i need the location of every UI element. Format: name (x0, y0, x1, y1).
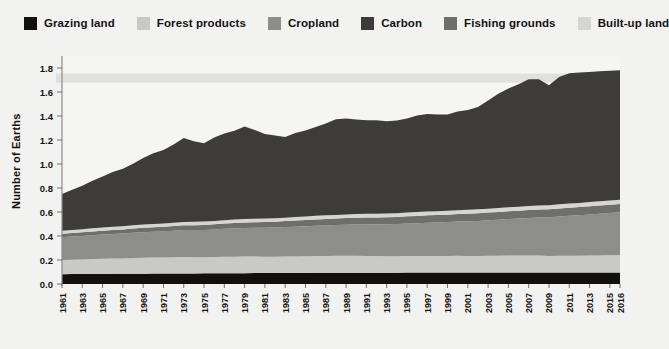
x-tick-label: 1983 (281, 293, 291, 313)
legend-swatch-icon (444, 17, 457, 30)
x-tick-label: 1977 (220, 293, 230, 313)
legend-item[interactable]: Grazing land (24, 17, 115, 30)
legend-item-label: Fishing grounds (464, 17, 556, 29)
area-series (62, 255, 620, 274)
y-tick-label: 0.2 (40, 255, 53, 266)
x-tick-label: 2009 (544, 293, 554, 313)
legend-item[interactable]: Cropland (268, 17, 339, 30)
legend-swatch-icon (578, 17, 591, 30)
legend-item[interactable]: Carbon (361, 17, 422, 30)
x-tick-label: 2013 (585, 293, 595, 313)
y-tick-label: 0.4 (40, 231, 54, 242)
y-tick-label: 1.0 (40, 159, 53, 170)
x-tick-label: 1961 (58, 293, 68, 313)
y-tick-label: 0.0 (40, 279, 53, 290)
legend-item[interactable]: Forest products (137, 17, 246, 30)
y-tick-label: 1.6 (40, 87, 53, 98)
chart-legend: Grazing landForest productsCroplandCarbo… (0, 0, 632, 46)
legend-item-label: Forest products (157, 17, 246, 29)
x-tick-label: 1965 (98, 293, 108, 313)
legend-item-label: Cropland (288, 17, 339, 29)
x-tick-label: 2003 (484, 293, 494, 313)
legend-item-label: Built-up land (598, 17, 669, 29)
chart-canvas: 0.00.20.40.60.81.01.21.41.61.81961196319… (0, 46, 632, 349)
legend-swatch-icon (24, 17, 37, 30)
x-tick-label: 2015 (605, 293, 615, 313)
x-tick-label: 1993 (382, 293, 392, 313)
x-tick-label: 1999 (443, 293, 453, 313)
x-tick-label: 1985 (301, 293, 311, 313)
y-tick-label: 1.8 (40, 63, 53, 74)
x-tick-label: 2001 (463, 293, 473, 313)
legend-item-label: Carbon (381, 17, 422, 29)
legend-swatch-icon (361, 17, 374, 30)
x-tick-label: 1969 (139, 293, 149, 313)
x-tick-label: 1971 (159, 293, 169, 313)
legend-item[interactable]: Built-up land (578, 17, 669, 30)
x-tick-label: 1979 (240, 293, 250, 313)
plot-area-wrapper: Number of Earths 0.00.20.40.60.81.01.21.… (0, 46, 632, 349)
x-tick-label: 1997 (423, 293, 433, 313)
x-tick-label: 2016 (616, 293, 626, 313)
legend-item[interactable]: Fishing grounds (444, 17, 556, 30)
x-tick-label: 2005 (504, 293, 514, 313)
x-tick-label: 1995 (402, 293, 412, 313)
area-series (62, 272, 620, 284)
x-tick-label: 1967 (118, 293, 128, 313)
legend-swatch-icon (268, 17, 281, 30)
x-tick-label: 1973 (179, 293, 189, 313)
x-tick-label: 1963 (78, 293, 88, 313)
y-tick-label: 1.2 (40, 135, 53, 146)
x-tick-label: 1987 (321, 293, 331, 313)
x-tick-label: 1991 (362, 293, 372, 313)
y-tick-label: 1.4 (40, 111, 54, 122)
legend-swatch-icon (137, 17, 150, 30)
legend-item-label: Grazing land (44, 17, 115, 29)
x-tick-label: 1989 (342, 293, 352, 313)
x-tick-label: 1975 (200, 293, 210, 313)
x-tick-label: 2007 (524, 293, 534, 313)
y-tick-label: 0.8 (40, 183, 53, 194)
x-tick-label: 1981 (260, 293, 270, 313)
x-tick-label: 2011 (565, 293, 575, 313)
y-tick-label: 0.6 (40, 207, 53, 218)
